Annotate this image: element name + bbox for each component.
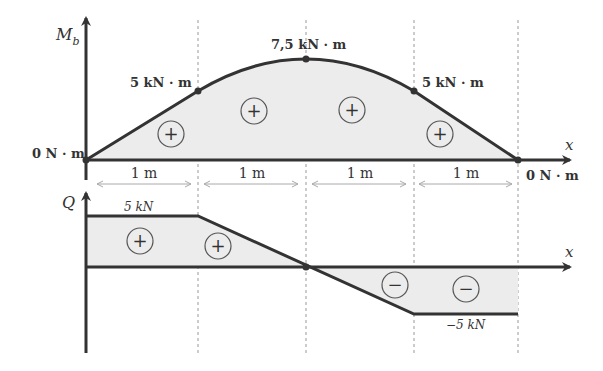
svg-text:+: +: [132, 230, 147, 251]
svg-text:+: +: [246, 100, 261, 121]
moment-value-4: 0 N · m: [526, 168, 579, 183]
shear-area-negative: [306, 267, 518, 314]
shear-area-positive: [86, 216, 306, 267]
shear-axis-label: Q: [62, 193, 75, 212]
shear-max-label: 5 kN: [124, 200, 154, 214]
svg-text:+: +: [344, 99, 359, 120]
svg-text:+: +: [210, 235, 225, 256]
svg-text:−: −: [387, 274, 402, 295]
moment-x-label: x: [565, 136, 574, 154]
dimensions: 1 m 1 m 1 m 1 m: [97, 165, 512, 184]
svg-text:1 m: 1 m: [239, 165, 266, 181]
moment-value-1: 5 kN · m: [130, 75, 192, 90]
moment-axis-label: Mb: [55, 25, 79, 48]
shear-min-label: −5 kN: [446, 318, 486, 332]
moment-value-0: 0 N · m: [32, 146, 85, 161]
svg-text:+: +: [163, 123, 178, 144]
svg-text:+: +: [432, 123, 447, 144]
svg-text:−: −: [458, 278, 473, 299]
svg-text:1 m: 1 m: [131, 165, 158, 181]
shear-x-label: x: [565, 243, 574, 261]
shear-diagram: Q x 5 kN −5 kN + + − −: [62, 193, 574, 353]
svg-text:1 m: 1 m: [347, 165, 374, 181]
moment-value-3: 5 kN · m: [422, 75, 484, 90]
moment-diagram: Mb x 0 N · m 5 kN · m 7,5 kN · m 5 kN · …: [32, 18, 579, 183]
moment-value-2: 7,5 kN · m: [271, 37, 347, 52]
svg-text:1 m: 1 m: [453, 165, 480, 181]
beam-diagram: Mb x 0 N · m 5 kN · m 7,5 kN · m 5 kN · …: [0, 0, 603, 371]
